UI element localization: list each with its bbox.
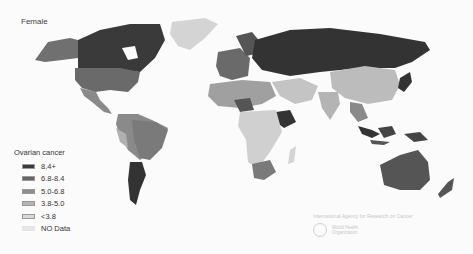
legend-label: 5.0-6.8: [41, 187, 64, 196]
legend-label: 8.4+: [41, 162, 56, 171]
region-central-africa: [238, 110, 282, 168]
legend-item: NO Data: [14, 223, 70, 236]
legend-swatch: [22, 164, 35, 169]
iarc-credit: International Agency for Research on Can…: [313, 213, 413, 219]
legend-title: Ovarian cancer: [14, 148, 70, 157]
legend-swatch: [22, 176, 35, 181]
region-china: [330, 66, 400, 104]
region-argentina: [128, 162, 146, 205]
region-india: [318, 92, 340, 120]
who-emblem-icon: [313, 223, 327, 237]
legend-label: NO Data: [41, 224, 70, 233]
legend-swatch: [22, 189, 35, 194]
legend-swatch: [22, 201, 35, 206]
legend-item: <3.8: [14, 210, 70, 223]
region-new-zealand: [438, 178, 454, 198]
legend-label: 6.8-8.4: [41, 174, 64, 183]
legend-label: 3.8-5.0: [41, 199, 64, 208]
region-southeast-asia: [350, 102, 368, 122]
region-usa: [75, 68, 140, 92]
region-indonesia: [358, 126, 380, 138]
region-australia: [380, 150, 430, 190]
map-title: Female: [21, 17, 48, 26]
legend-label: <3.8: [41, 212, 56, 221]
map-legend: Ovarian cancer 8.4+ 6.8-8.4 5.0-6.8 3.8-…: [14, 148, 70, 235]
legend-item: 5.0-6.8: [14, 185, 70, 198]
region-mexico: [80, 88, 112, 114]
region-middle-east: [272, 78, 318, 104]
legend-swatch: [22, 226, 35, 231]
region-madagascar: [288, 146, 296, 164]
who-name: World Health Organization: [332, 225, 362, 235]
legend-item: 8.4+: [14, 160, 70, 173]
legend-item: 6.8-8.4: [14, 173, 70, 186]
region-japan: [398, 72, 412, 92]
region-russia: [252, 28, 430, 76]
who-logo-block: World Health Organization: [313, 223, 362, 237]
region-greenland: [170, 18, 218, 50]
legend-item: 3.8-5.0: [14, 198, 70, 211]
legend-swatch: [22, 214, 35, 219]
region-alaska: [35, 38, 78, 62]
region-canada: [78, 24, 165, 72]
